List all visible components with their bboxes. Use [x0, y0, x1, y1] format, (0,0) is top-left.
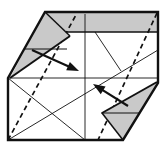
origami-diagram-page — [0, 0, 165, 149]
origami-step-figure — [0, 0, 165, 149]
